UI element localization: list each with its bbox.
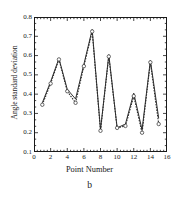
panel-label: b	[0, 180, 179, 190]
data-series	[41, 30, 161, 135]
x-axis-label: Point Number	[0, 165, 179, 174]
x-tick-label: 16	[159, 154, 175, 161]
x-tick-label: 10	[109, 154, 125, 161]
plot-area	[34, 17, 167, 152]
x-tick-label: 14	[142, 154, 158, 161]
x-tick-label: 12	[126, 154, 142, 161]
x-tick-label: 4	[59, 154, 75, 161]
chart-svg	[34, 17, 167, 152]
x-tick-label: 2	[43, 154, 59, 161]
x-tick-label: 0	[26, 154, 42, 161]
x-tick-label: 8	[93, 154, 109, 161]
x-tick-label: 6	[76, 154, 92, 161]
figure-panel-b: Angle standard deviation 0.8 0.7 0.6 0.5…	[0, 0, 179, 197]
